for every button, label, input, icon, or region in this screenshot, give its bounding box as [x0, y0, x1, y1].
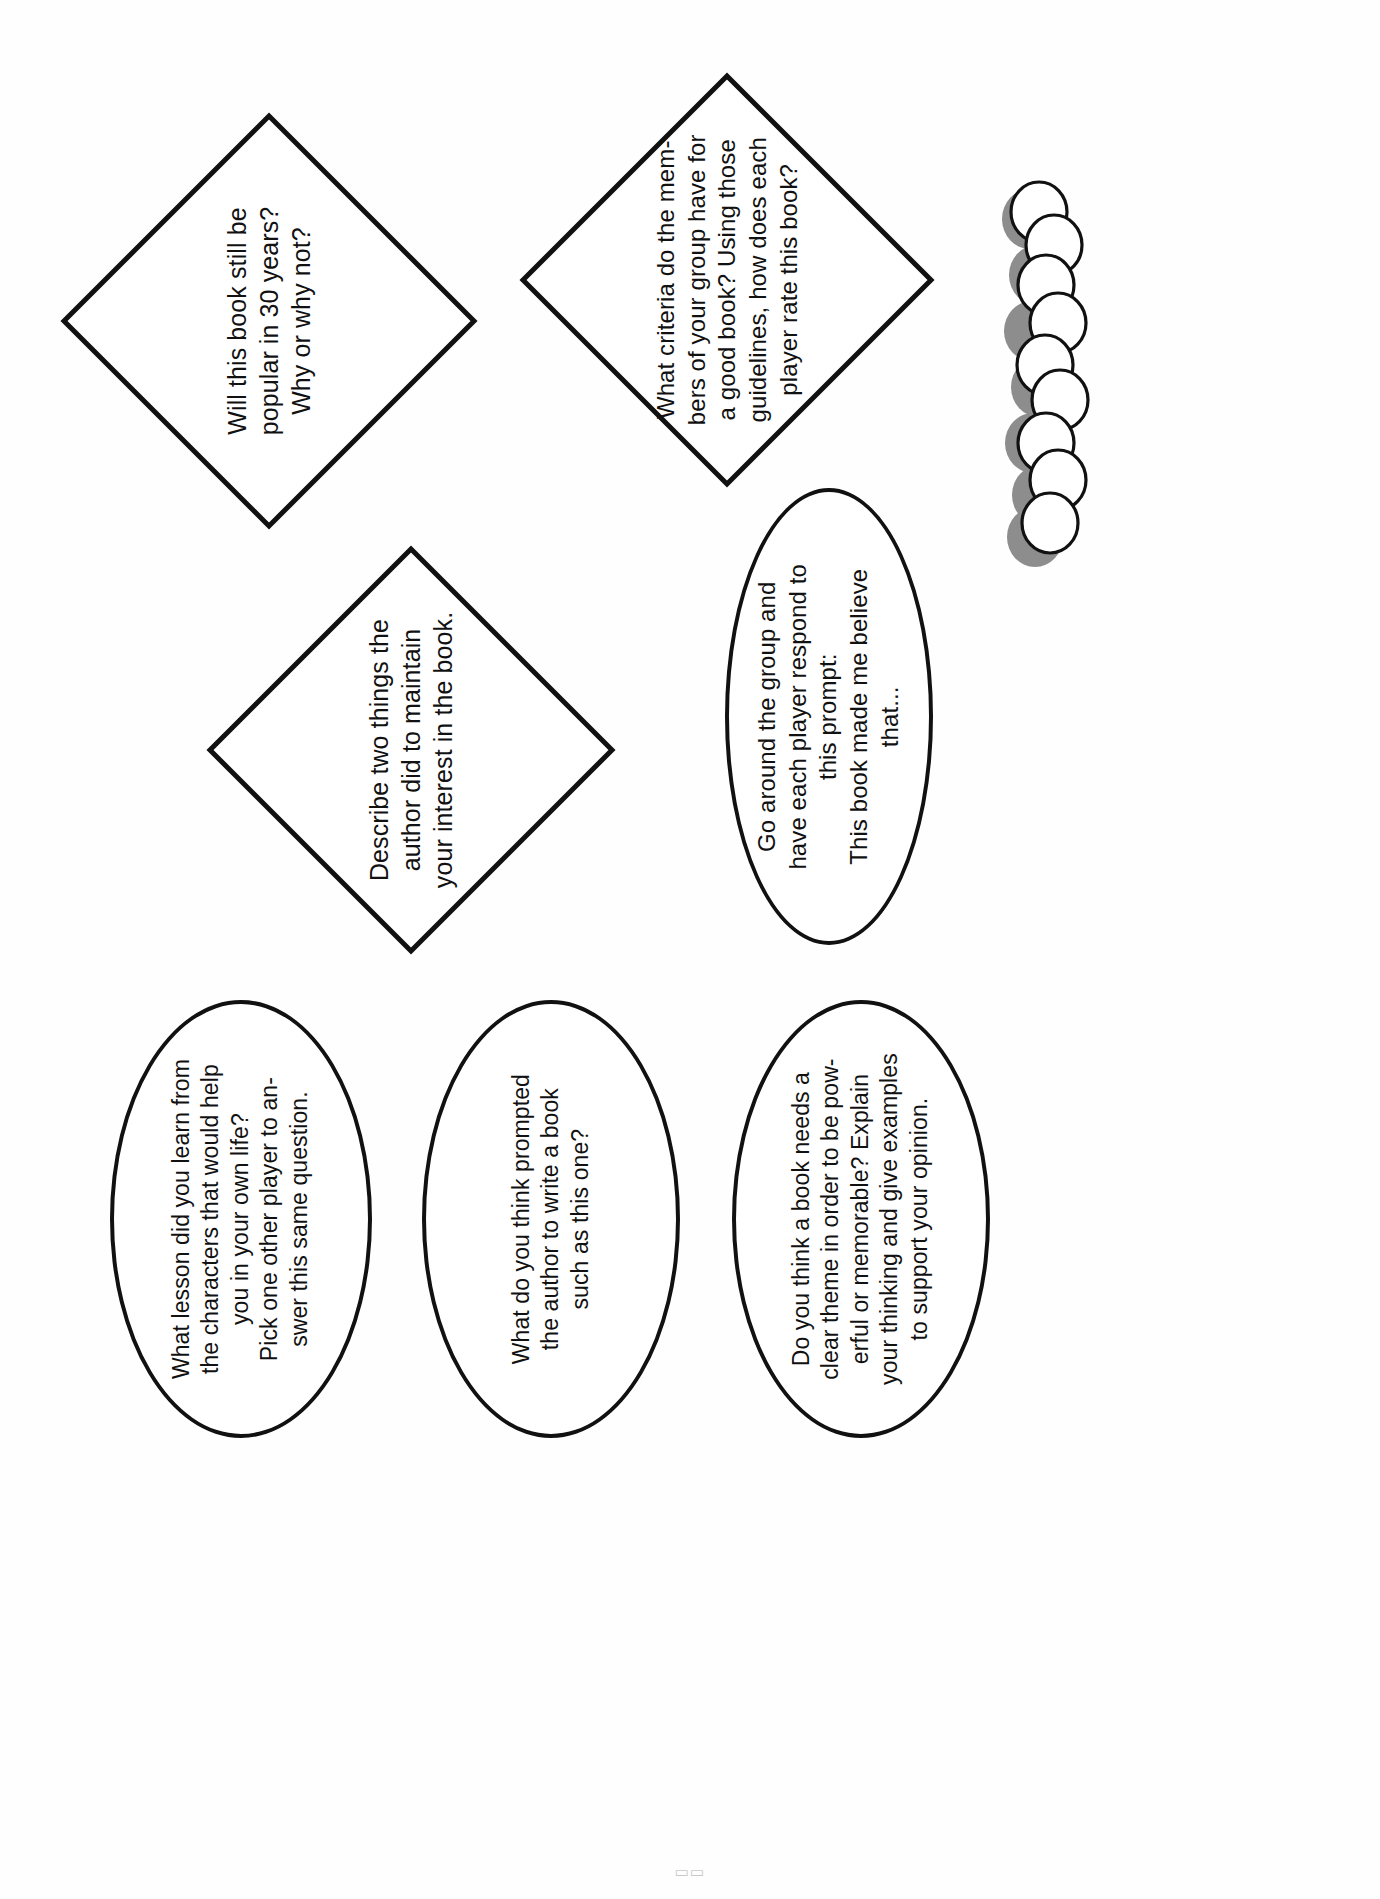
- oval-clear-theme-text-box: Do you think a book needs a clear theme …: [666, 1112, 1056, 1327]
- oval-lesson-learned-text: What lesson did you learn from the chara…: [167, 1059, 314, 1379]
- page-number: ▭▭: [0, 1863, 1380, 1881]
- diamond-maintain-interest: Describe two things the author did to ma…: [206, 545, 616, 955]
- oval-made-me-believe-text-box: Go around the group and have each player…: [629, 627, 1029, 807]
- worksheet-page: Will this book still be popular in 30 ye…: [0, 0, 1380, 1899]
- diamond-popular-30-years: Will this book still be popular in 30 ye…: [60, 112, 478, 530]
- diamond-popular-30-years-text-box: Will this book still be popular in 30 ye…: [119, 171, 419, 471]
- oval-made-me-believe-text: Go around the group and have each player…: [752, 564, 906, 870]
- oval-clear-theme-text: Do you think a book needs a clear theme …: [787, 1053, 934, 1385]
- diamond-criteria-good-book-text-box: What criteria do the mem- bers of your g…: [562, 115, 892, 445]
- oval-made-me-believe: Go around the group and have each player…: [725, 488, 933, 945]
- diamond-popular-30-years-text: Will this book still be popular in 30 ye…: [221, 207, 317, 436]
- oval-what-prompted-author-text: What do you think prompted the author to…: [507, 1074, 595, 1364]
- diamond-maintain-interest-text-box: Describe two things the author did to ma…: [261, 600, 561, 900]
- oval-what-prompted-author: What do you think prompted the author to…: [422, 1000, 680, 1438]
- diamond-criteria-good-book: What criteria do the mem- bers of your g…: [519, 72, 935, 488]
- diamond-criteria-good-book-text: What criteria do the mem- bers of your g…: [650, 135, 804, 426]
- diamond-maintain-interest-text: Describe two things the author did to ma…: [363, 612, 459, 888]
- oval-lesson-learned: What lesson did you learn from the chara…: [110, 1000, 372, 1438]
- oval-clear-theme: Do you think a book needs a clear theme …: [732, 1000, 990, 1438]
- overlapping-circles-chain-icon: [990, 175, 1100, 565]
